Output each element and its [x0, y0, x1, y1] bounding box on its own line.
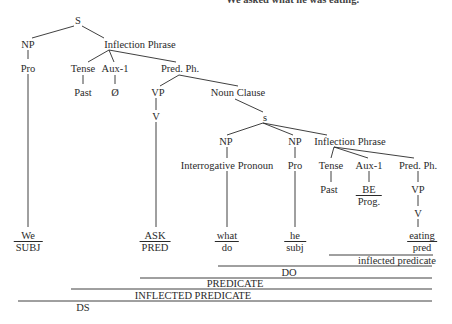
- leaf-word: what: [215, 230, 239, 242]
- node-np-embedded-subject: NP: [288, 136, 301, 147]
- node-pro-subject: Pro: [21, 63, 36, 74]
- node-tense-main: Tense: [71, 63, 95, 74]
- be-label: BE: [356, 184, 382, 196]
- node-pro-embedded: Pro: [288, 160, 303, 171]
- node-vp-embedded: VP: [411, 184, 424, 195]
- node-vp-main: VP: [151, 87, 164, 98]
- node-tense-embedded: Tense: [319, 160, 343, 171]
- leaf-role: subj: [284, 242, 306, 253]
- band-predicate: PREDICATE: [207, 278, 264, 289]
- leaf-role: pred: [407, 242, 437, 253]
- node-inflection-phrase-embedded: Inflection Phrase: [314, 136, 385, 147]
- node-aux-embedded: Aux-1: [356, 160, 383, 171]
- leaf-word: We: [14, 230, 43, 242]
- node-null-aux: Ø: [111, 87, 119, 98]
- node-pred-phrase-main: Pred. Ph.: [161, 63, 199, 74]
- band-inflected-predicate-lower: inflected predicate: [358, 255, 436, 266]
- leaf-eating: eating pred: [407, 230, 437, 253]
- band-do: DO: [281, 267, 296, 278]
- leaf-word: ASK: [140, 230, 171, 242]
- node-v-main: V: [152, 111, 160, 122]
- node-aux-main: Aux-1: [102, 63, 129, 74]
- leaf-word: eating: [407, 230, 437, 242]
- node-np-subject: NP: [21, 39, 34, 50]
- band-ds: DS: [76, 302, 89, 313]
- leaf-role: do: [215, 242, 239, 253]
- node-interrogative-pronoun: Interrogative Pronoun: [181, 160, 273, 171]
- node-past-main: Past: [74, 87, 92, 98]
- leaf-role: PRED: [140, 242, 171, 253]
- node-past-embedded: Past: [320, 184, 338, 195]
- node-be-progressive: BE Prog.: [356, 184, 382, 207]
- leaf-role: SUBJ: [14, 242, 43, 253]
- leaf-what: what do: [215, 230, 239, 253]
- band-inflected-predicate-upper: INFLECTED PREDICATE: [135, 290, 251, 301]
- node-v-embedded: V: [414, 208, 422, 219]
- leaf-word: he: [284, 230, 306, 242]
- node-s-embedded: s: [263, 112, 267, 123]
- leaf-ask: ASK PRED: [140, 230, 171, 253]
- node-inflection-phrase-main: Inflection Phrase: [104, 39, 175, 50]
- node-pred-phrase-embedded: Pred. Ph.: [399, 160, 437, 171]
- leaf-he: he subj: [284, 230, 306, 253]
- node-s-root: S: [75, 15, 81, 26]
- prog-label: Prog.: [356, 196, 382, 207]
- leaf-we: We SUBJ: [14, 230, 43, 253]
- node-np-object: NP: [219, 136, 232, 147]
- node-noun-clause: Noun Clause: [211, 87, 266, 98]
